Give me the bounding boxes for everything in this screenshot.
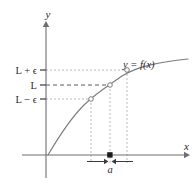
y-axis-arrowhead [43,21,50,27]
y-axis-ticks [40,70,46,99]
point-lower [89,97,94,102]
limit-definition-figure: L + ϵ L L − ϵ a y = f(x) y x [0,0,196,188]
y-axis-label: y [45,8,51,20]
x-axis-label: x [183,140,189,152]
function-curve [48,59,188,155]
y-tick-label-l-minus-eps: L − ϵ [16,94,38,105]
curve-label: y = f(x) [122,59,155,71]
y-tick-label-l: L [31,80,37,91]
horizontal-guide-lines [46,70,127,99]
y-tick-label-l-plus-eps: L + ϵ [16,65,38,76]
curve-points [89,68,130,102]
point-a-marker [107,152,112,157]
point-limit [108,83,113,88]
x-label-a: a [107,164,112,175]
figure-canvas: L + ϵ L L − ϵ a y = f(x) y x [0,0,196,188]
x-axis-arrowhead [184,152,190,159]
